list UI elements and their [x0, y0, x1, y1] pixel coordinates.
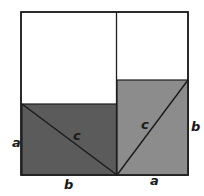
label-right-bottom-a: a: [150, 173, 159, 188]
label-left-hypotenuse-c: c: [73, 128, 81, 143]
label-right-hypotenuse-c: c: [141, 117, 149, 132]
label-left-bottom-b: b: [64, 177, 73, 192]
label-left-side-a: a: [12, 135, 21, 150]
pythagorean-diagram: a c b c b a: [0, 0, 204, 196]
label-right-side-b: b: [191, 119, 200, 134]
